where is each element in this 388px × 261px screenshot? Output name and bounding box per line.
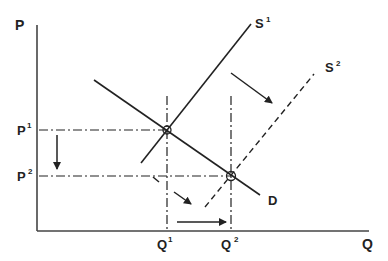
demand-curve-label: D (268, 193, 277, 208)
quantity-label-q2: Q 2 (221, 235, 239, 252)
price-label-p2: P 2 (17, 167, 33, 184)
svg-text:1: 1 (27, 121, 32, 130)
svg-text:Q: Q (157, 237, 167, 252)
supply-shift-arrow-lower-head (174, 192, 191, 204)
svg-text:2: 2 (234, 235, 239, 244)
svg-text:P: P (17, 123, 26, 138)
svg-text:P: P (17, 169, 26, 184)
svg-text:Q: Q (221, 237, 231, 252)
svg-text:2: 2 (28, 167, 33, 176)
x-axis-label: Q (362, 236, 373, 252)
svg-text:2: 2 (336, 59, 341, 68)
supply-curve-s2-label: S 2 (325, 59, 341, 75)
svg-text:S: S (325, 60, 334, 75)
svg-text:1: 1 (266, 15, 271, 24)
price-label-p1: P 1 (17, 121, 32, 138)
supply-shift-arrow-lower (153, 177, 159, 182)
supply-curve-s1-label: S 1 (255, 15, 271, 31)
svg-text:S: S (255, 16, 264, 31)
supply-curve-s1 (141, 24, 251, 163)
supply-shift-arrow-upper (231, 73, 272, 103)
y-axis-label: P (15, 17, 24, 33)
quantity-label-q1: Q 1 (157, 235, 173, 252)
svg-text:1: 1 (168, 235, 173, 244)
supply-demand-diagram: P Q P 1 P 2 Q 1 Q 2 D S 1 S 2 (0, 0, 388, 261)
